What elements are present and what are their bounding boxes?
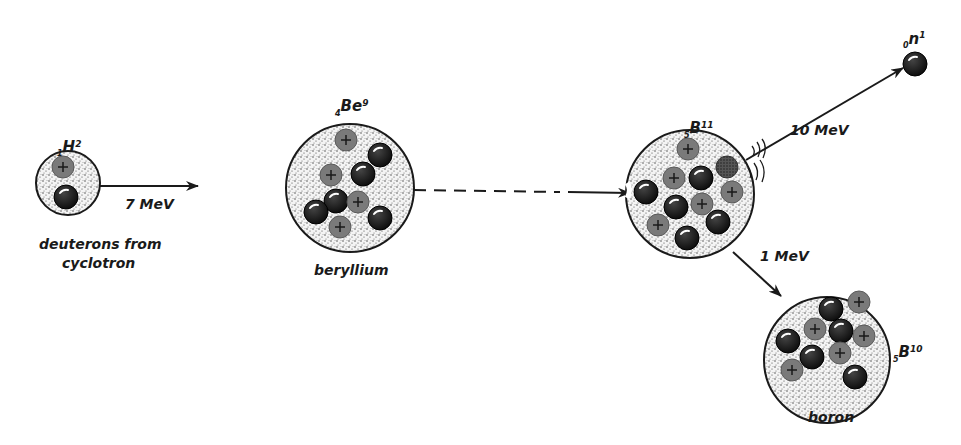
boron-10-nucleus	[764, 291, 890, 423]
free-neutron-icon	[903, 52, 927, 76]
neutron-arrow	[746, 68, 903, 160]
boron-10-label: 5B10	[893, 343, 923, 364]
capture-arrow	[568, 192, 630, 193]
neutron-energy: 10 MeV	[790, 122, 850, 138]
proton-icon	[52, 156, 74, 178]
boron-11-compound-nucleus	[626, 130, 754, 258]
deuteron-caption-1: deuterons from	[39, 236, 162, 252]
deuteron-energy: 7 MeV	[125, 196, 175, 212]
deuteron-caption-2: cyclotron	[62, 255, 135, 271]
neutron-label: 0n1	[903, 30, 926, 50]
dashed-path	[414, 190, 560, 192]
beryllium-caption: beryllium	[314, 262, 389, 278]
beryllium-nucleus	[286, 124, 414, 252]
beryllium-label: 4Be9	[334, 97, 368, 118]
recoil-energy: 1 MeV	[760, 248, 810, 264]
excitation-waves-icon	[748, 139, 765, 182]
ejected-neutron-icon	[716, 156, 738, 178]
boron-caption: boron	[808, 409, 854, 425]
nuclear-reaction-diagram: 1H2 7 MeV deuterons from cyclotron 4Be9 …	[0, 0, 961, 445]
deuteron-nucleus	[36, 151, 100, 215]
neutron-icon	[54, 185, 78, 209]
